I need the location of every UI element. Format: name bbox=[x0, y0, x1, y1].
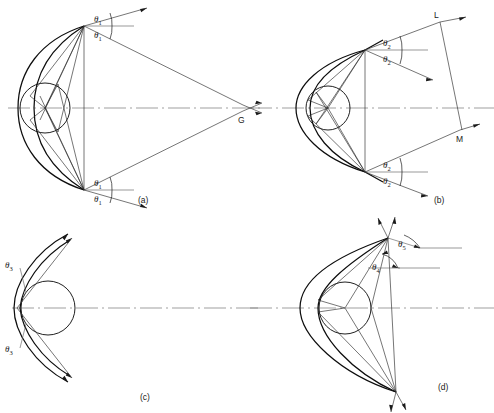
panel-d: θ5 θ4 (d) bbox=[250, 217, 494, 412]
panel-b: θ2 θ2 θ2 θ2 L M (b) bbox=[250, 10, 494, 205]
panel-a-angle-label-upper-outer: θ1 bbox=[94, 14, 102, 26]
panel-b-angle-label-upper-inner: θ2 bbox=[383, 54, 391, 66]
panel-d-caption: (d) bbox=[438, 382, 449, 392]
panel-a-angle-label-upper-inner: θ1 bbox=[94, 30, 102, 42]
panel-a-angle-arc-upper-2 bbox=[110, 26, 112, 39]
panel-a-arrowhead-upper-escape bbox=[140, 8, 147, 12]
panel-b-angle-arc-upper-2 bbox=[400, 50, 402, 64]
panel-a-angle-arc-upper-1 bbox=[110, 13, 112, 26]
panel-c-caption: (c) bbox=[140, 392, 150, 402]
panel-d-angle-arc-theta4 bbox=[382, 254, 398, 268]
panel-b-arrowhead-l bbox=[459, 17, 466, 21]
panel-a-angle-label-lower-inner: θ1 bbox=[94, 194, 102, 206]
panel-a-ray-lower-to-g bbox=[84, 111, 243, 190]
panel-b-point-label-m: M bbox=[456, 134, 463, 144]
panel-b-caption: (b) bbox=[434, 195, 445, 205]
panel-b-angle-arc-lower-2 bbox=[400, 172, 402, 186]
panel-c-angle-label-lower: θ3 bbox=[5, 344, 13, 356]
panel-b-point-label-l: L bbox=[434, 10, 439, 20]
panel-a-angle-label-lower-outer: θ1 bbox=[94, 178, 102, 190]
panel-b-internal-rays bbox=[308, 50, 365, 172]
panel-b-ray-upper-inner bbox=[365, 50, 433, 80]
panel-a-ray-upper-to-g bbox=[84, 26, 243, 105]
panel-a-ray-out-upper bbox=[243, 103, 262, 111]
panel-d-arrowhead-upper-b bbox=[392, 217, 396, 224]
panel-a: θ1 θ1 θ1 θ1 G (a) bbox=[8, 8, 262, 208]
panel-c-angle-label-upper: θ3 bbox=[5, 260, 13, 272]
panel-b-inner-reflector bbox=[310, 50, 365, 172]
panel-b-arrowhead-m bbox=[473, 124, 480, 128]
panel-c: θ3 θ3 (c) bbox=[5, 234, 262, 402]
panel-b-angle-arc-upper-1 bbox=[400, 36, 402, 50]
panel-a-ray-out-lower bbox=[243, 105, 262, 113]
panel-b-angle-label-lower-inner: θ2 bbox=[383, 176, 391, 188]
panel-b-angle-label-upper-outer: θ2 bbox=[383, 38, 391, 50]
panel-d-inner-reflector bbox=[318, 238, 396, 392]
panel-b-angle-arc-lower-1 bbox=[400, 158, 402, 172]
panel-b-ray-upper-to-l bbox=[365, 22, 440, 50]
panel-b-lower-tip bbox=[365, 172, 383, 182]
diagram-canvas: θ1 θ1 θ1 θ1 G (a) bbox=[0, 0, 494, 413]
panel-b-angle-label-lower-outer: θ2 bbox=[383, 160, 391, 172]
panel-a-angle-arc-lower-1 bbox=[110, 177, 112, 190]
panel-b-ray-lower-to-m bbox=[365, 130, 460, 172]
panel-a-angle-arc-lower-2 bbox=[110, 190, 112, 203]
panel-d-angle-label-lower: θ4 bbox=[372, 262, 380, 274]
panel-d-angle-arc-theta5 bbox=[404, 235, 420, 248]
panel-d-angle-label-upper: θ5 bbox=[398, 239, 406, 251]
panel-b-aperture-line-lm bbox=[440, 22, 462, 130]
panel-a-point-label-g: G bbox=[238, 115, 245, 125]
panel-b-ray-lower-inner bbox=[365, 172, 428, 196]
panel-a-caption: (a) bbox=[138, 195, 149, 205]
four-panel-reflector-diagram: θ1 θ1 θ1 θ1 G (a) bbox=[0, 0, 494, 413]
panel-b-upper-tip bbox=[365, 40, 383, 50]
